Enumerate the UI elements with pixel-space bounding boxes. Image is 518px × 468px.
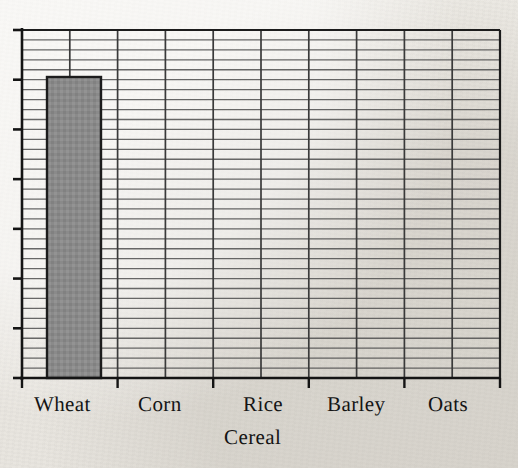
bar-wheat[interactable] — [47, 77, 101, 378]
x-axis-title: Cereal — [224, 425, 281, 450]
x-tick-label-oats: Oats — [428, 392, 468, 417]
x-tick-label-wheat: Wheat — [34, 392, 91, 417]
bar-rect-wheat[interactable] — [47, 77, 101, 378]
x-axis-ticks — [22, 378, 500, 388]
x-tick-label-rice: Rice — [243, 392, 283, 417]
y-axis-major-ticks — [13, 30, 22, 378]
x-tick-label-barley: Barley — [327, 392, 385, 417]
x-tick-label-corn: Corn — [138, 392, 182, 417]
vertical-gridlines — [70, 30, 452, 378]
